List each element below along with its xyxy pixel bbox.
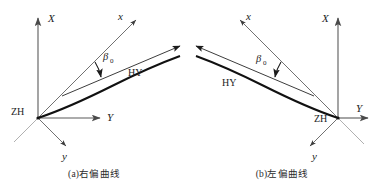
right-deflecting-curve-drawing: X Y x y β 0 ZH HY <box>0 0 188 184</box>
figure-root: X Y x y β 0 ZH HY <box>0 0 376 184</box>
panel-left-deflecting-curve: X Y x y β 0 ZH HY <box>188 0 376 184</box>
global-x-axis-label: X <box>321 12 330 24</box>
local-x-axis-label: x <box>117 10 123 22</box>
zh-point-label: ZH <box>314 113 327 124</box>
local-y-axis-line <box>38 118 66 146</box>
hy-tangent-line <box>62 46 180 96</box>
global-y-axis-label: Y <box>107 111 115 123</box>
local-y-axis-extension <box>338 118 364 144</box>
beta-angle-label: β <box>255 53 262 64</box>
zh-point-marker <box>36 116 39 119</box>
hy-tangent-line <box>196 46 314 96</box>
global-y-axis-label: Y <box>356 102 364 114</box>
beta-angle-label: β <box>102 51 109 62</box>
zh-point-marker <box>336 116 339 119</box>
beta-angle-subscript: 0 <box>110 57 114 65</box>
local-y-axis-extension <box>14 118 38 142</box>
left-deflecting-curve-drawing: X Y x y β 0 ZH HY <box>188 0 376 184</box>
local-x-axis-line <box>240 20 338 118</box>
beta-angle-subscript: 0 <box>263 59 267 67</box>
spiral-curve-path <box>196 56 338 118</box>
local-x-axis-label: x <box>245 10 251 22</box>
zh-point-label: ZH <box>11 106 24 117</box>
local-x-axis-line <box>38 20 136 118</box>
local-y-axis-label: y <box>311 150 317 162</box>
beta-angle-arc <box>95 62 101 77</box>
hy-point-label: HY <box>128 67 142 78</box>
beta-angle-arc <box>275 62 281 77</box>
panel-right-deflecting-curve: X Y x y β 0 ZH HY <box>0 0 188 184</box>
global-x-axis-label: X <box>47 12 56 24</box>
panel-caption-right-deflecting: (a)右偏曲线 <box>0 168 188 180</box>
local-y-axis-label: y <box>61 150 67 162</box>
spiral-curve-path <box>38 56 180 118</box>
hy-point-label: HY <box>222 77 236 88</box>
panel-caption-left-deflecting: (b)左偏曲线 <box>188 168 376 180</box>
